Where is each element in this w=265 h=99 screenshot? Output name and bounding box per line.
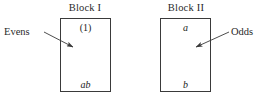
block-2-bottom-label: b (160, 79, 211, 90)
block-2-title: Block II (155, 2, 217, 14)
odds-annotation-label: Odds (231, 26, 253, 38)
block-1-bottom-label: ab (60, 79, 111, 90)
block-1-top-label: (1) (60, 22, 111, 33)
leader-lines-layer (0, 0, 265, 99)
block-diagram-figure: Block I (1) ab Evens Block II a b Odds (0, 0, 265, 99)
block-2-top-label: a (160, 22, 211, 33)
evens-annotation-label: Evens (4, 26, 30, 38)
block-1-title: Block I (55, 2, 115, 14)
